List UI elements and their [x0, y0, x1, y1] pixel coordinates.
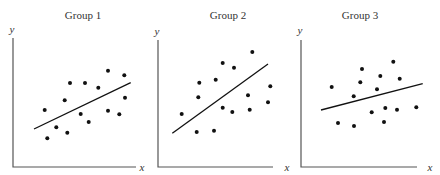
data-point: [398, 77, 402, 81]
panel-title: Group 2: [210, 9, 246, 21]
axes: [13, 38, 136, 167]
data-point: [63, 98, 67, 102]
regression-line: [34, 83, 131, 129]
axes: [301, 40, 417, 167]
three-panel-scatter-figure: Group 1 y x Group 2 y x Group 3 y x: [0, 0, 440, 175]
data-point: [375, 87, 379, 91]
data-point: [45, 136, 49, 140]
data-point: [196, 95, 200, 99]
data-point: [214, 78, 218, 82]
data-point: [230, 110, 234, 114]
panel-group-1: Group 1 y x: [9, 9, 145, 173]
data-point: [68, 81, 72, 85]
data-point: [248, 108, 252, 112]
data-point: [221, 61, 225, 65]
y-axis-label: y: [297, 24, 303, 36]
data-point: [212, 129, 216, 133]
data-point: [106, 69, 110, 73]
x-axis-label: x: [284, 161, 290, 173]
data-point: [65, 131, 69, 135]
data-point: [221, 106, 225, 110]
regression-line: [172, 64, 268, 133]
data-point: [268, 84, 272, 88]
data-point: [197, 81, 201, 85]
data-point: [83, 81, 87, 85]
data-point: [395, 108, 399, 112]
panel-group-2: Group 2 y x: [154, 9, 290, 173]
data-point: [96, 86, 100, 90]
data-point: [360, 67, 364, 71]
data-point: [123, 96, 127, 100]
data-point: [391, 60, 395, 64]
data-point: [358, 80, 362, 84]
data-point: [336, 121, 340, 125]
data-point: [352, 124, 356, 128]
data-point: [383, 106, 387, 110]
data-points: [330, 60, 419, 128]
x-axis-label: x: [427, 161, 433, 173]
data-point: [106, 109, 110, 113]
data-point: [43, 108, 47, 112]
x-axis-label: x: [139, 161, 145, 173]
data-point: [117, 112, 121, 116]
data-point: [414, 105, 418, 109]
data-point: [87, 120, 91, 124]
data-point: [246, 93, 250, 97]
data-point: [232, 66, 236, 70]
data-point: [79, 112, 83, 116]
data-point: [370, 110, 374, 114]
y-axis-label: y: [9, 23, 15, 35]
data-point: [54, 125, 58, 129]
axes: [158, 40, 273, 167]
data-point: [266, 100, 270, 104]
panel-title: Group 1: [65, 9, 101, 21]
data-point: [180, 112, 184, 116]
regression-line: [321, 84, 423, 110]
data-point: [330, 85, 334, 89]
data-point: [352, 94, 356, 98]
data-point: [378, 74, 382, 78]
data-points: [180, 50, 273, 134]
data-point: [122, 73, 126, 77]
data-point: [382, 120, 386, 124]
data-point: [250, 50, 254, 54]
y-axis-label: y: [154, 25, 160, 37]
panel-title: Group 3: [342, 9, 379, 21]
panel-group-3: Group 3 y x: [297, 9, 433, 173]
data-point: [195, 130, 199, 134]
